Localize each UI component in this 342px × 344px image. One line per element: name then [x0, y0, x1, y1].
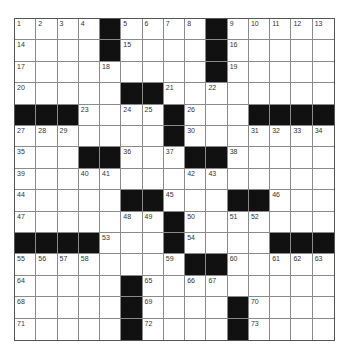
- grid-cell[interactable]: 20: [15, 83, 36, 104]
- grid-cell[interactable]: 25: [143, 105, 164, 126]
- grid-cell[interactable]: [270, 147, 291, 168]
- grid-cell[interactable]: [58, 212, 79, 233]
- grid-cell[interactable]: 5: [121, 19, 142, 40]
- grid-cell[interactable]: [228, 169, 249, 190]
- grid-cell[interactable]: [79, 62, 100, 83]
- grid-cell[interactable]: [100, 319, 121, 340]
- grid-cell[interactable]: [79, 212, 100, 233]
- grid-cell[interactable]: 19: [228, 62, 249, 83]
- grid-cell[interactable]: [121, 62, 142, 83]
- grid-cell[interactable]: [249, 147, 270, 168]
- grid-cell[interactable]: 45: [164, 190, 185, 211]
- grid-cell[interactable]: [100, 83, 121, 104]
- grid-cell[interactable]: [58, 40, 79, 61]
- grid-cell[interactable]: [36, 169, 57, 190]
- grid-cell[interactable]: [36, 212, 57, 233]
- grid-cell[interactable]: [270, 319, 291, 340]
- grid-cell[interactable]: [313, 169, 334, 190]
- grid-cell[interactable]: [79, 190, 100, 211]
- grid-cell[interactable]: [313, 297, 334, 318]
- grid-cell[interactable]: 70: [249, 297, 270, 318]
- grid-cell[interactable]: [249, 169, 270, 190]
- grid-cell[interactable]: [58, 147, 79, 168]
- grid-cell[interactable]: 8: [185, 19, 206, 40]
- grid-cell[interactable]: [313, 40, 334, 61]
- grid-cell[interactable]: [143, 62, 164, 83]
- grid-cell[interactable]: [164, 169, 185, 190]
- grid-cell[interactable]: [58, 62, 79, 83]
- grid-cell[interactable]: 56: [36, 254, 57, 275]
- grid-cell[interactable]: [58, 276, 79, 297]
- grid-cell[interactable]: [185, 319, 206, 340]
- grid-cell[interactable]: [164, 319, 185, 340]
- grid-cell[interactable]: 43: [206, 169, 227, 190]
- grid-cell[interactable]: [164, 276, 185, 297]
- grid-cell[interactable]: 48: [121, 212, 142, 233]
- grid-cell[interactable]: [58, 190, 79, 211]
- grid-cell[interactable]: [100, 212, 121, 233]
- grid-cell[interactable]: 49: [143, 212, 164, 233]
- grid-cell[interactable]: [100, 276, 121, 297]
- grid-cell[interactable]: [291, 40, 312, 61]
- grid-cell[interactable]: [291, 147, 312, 168]
- grid-cell[interactable]: 38: [228, 147, 249, 168]
- grid-cell[interactable]: 63: [313, 254, 334, 275]
- grid-cell[interactable]: 15: [121, 40, 142, 61]
- grid-cell[interactable]: 39: [15, 169, 36, 190]
- grid-cell[interactable]: [36, 147, 57, 168]
- grid-cell[interactable]: [313, 147, 334, 168]
- grid-cell[interactable]: [249, 83, 270, 104]
- grid-cell[interactable]: [143, 126, 164, 147]
- grid-cell[interactable]: [228, 276, 249, 297]
- grid-cell[interactable]: 67: [206, 276, 227, 297]
- grid-cell[interactable]: [206, 233, 227, 254]
- grid-cell[interactable]: [185, 83, 206, 104]
- grid-cell[interactable]: [79, 297, 100, 318]
- grid-cell[interactable]: [313, 212, 334, 233]
- grid-cell[interactable]: [206, 319, 227, 340]
- grid-cell[interactable]: 14: [15, 40, 36, 61]
- grid-cell[interactable]: 7: [164, 19, 185, 40]
- grid-cell[interactable]: [143, 233, 164, 254]
- grid-cell[interactable]: [249, 62, 270, 83]
- grid-cell[interactable]: 50: [185, 212, 206, 233]
- grid-cell[interactable]: 17: [15, 62, 36, 83]
- grid-cell[interactable]: 68: [15, 297, 36, 318]
- grid-cell[interactable]: 36: [121, 147, 142, 168]
- grid-cell[interactable]: 58: [79, 254, 100, 275]
- grid-cell[interactable]: 72: [143, 319, 164, 340]
- grid-cell[interactable]: [291, 83, 312, 104]
- grid-cell[interactable]: 41: [100, 169, 121, 190]
- grid-cell[interactable]: 16: [228, 40, 249, 61]
- grid-cell[interactable]: 62: [291, 254, 312, 275]
- grid-cell[interactable]: 42: [185, 169, 206, 190]
- grid-cell[interactable]: 24: [121, 105, 142, 126]
- grid-cell[interactable]: 11: [270, 19, 291, 40]
- grid-cell[interactable]: 32: [270, 126, 291, 147]
- grid-cell[interactable]: [206, 126, 227, 147]
- grid-cell[interactable]: [36, 62, 57, 83]
- grid-cell[interactable]: 3: [58, 19, 79, 40]
- grid-cell[interactable]: 27: [15, 126, 36, 147]
- grid-cell[interactable]: [291, 297, 312, 318]
- grid-cell[interactable]: [36, 319, 57, 340]
- grid-cell[interactable]: [185, 297, 206, 318]
- grid-cell[interactable]: [100, 254, 121, 275]
- grid-cell[interactable]: [270, 297, 291, 318]
- grid-cell[interactable]: [270, 169, 291, 190]
- grid-cell[interactable]: [270, 40, 291, 61]
- grid-cell[interactable]: [58, 83, 79, 104]
- grid-cell[interactable]: [79, 83, 100, 104]
- grid-cell[interactable]: 26: [185, 105, 206, 126]
- grid-cell[interactable]: [79, 40, 100, 61]
- grid-cell[interactable]: [313, 319, 334, 340]
- grid-cell[interactable]: [228, 83, 249, 104]
- grid-cell[interactable]: [270, 276, 291, 297]
- grid-cell[interactable]: [313, 83, 334, 104]
- grid-cell[interactable]: [164, 40, 185, 61]
- grid-cell[interactable]: [249, 276, 270, 297]
- grid-cell[interactable]: [228, 105, 249, 126]
- grid-cell[interactable]: 23: [79, 105, 100, 126]
- grid-cell[interactable]: 65: [143, 276, 164, 297]
- grid-cell[interactable]: 31: [249, 126, 270, 147]
